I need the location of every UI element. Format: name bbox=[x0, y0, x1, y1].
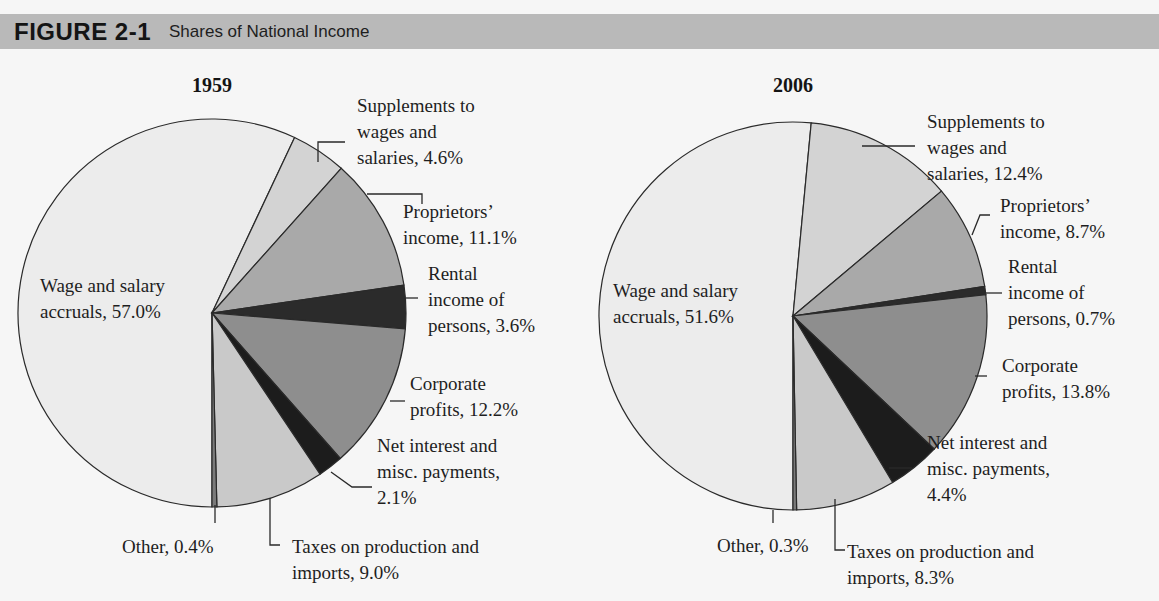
pie-chart-2006: 2006 Wage and salaryaccruals, 51.6% Supp… bbox=[599, 74, 1115, 588]
label-taxes-1959: Taxes on production andimports, 9.0% bbox=[292, 536, 480, 583]
label-proprietors-2006: Proprietors’income, 8.7% bbox=[1000, 195, 1105, 242]
label-proprietors-1959: Proprietors’income, 11.1% bbox=[403, 201, 517, 248]
label-other-2006: Other, 0.3% bbox=[717, 535, 809, 556]
label-other-1959: Other, 0.4% bbox=[122, 536, 214, 557]
label-corporate-1959: Corporateprofits, 12.2% bbox=[410, 373, 518, 420]
label-netinterest-1959: Net interest andmisc. payments,2.1% bbox=[377, 435, 500, 508]
pie-chart-1959: 1959 Wage and salaryaccruals, 57.0% Supp… bbox=[18, 74, 535, 583]
chart-title-2006: 2006 bbox=[773, 74, 813, 96]
label-supplements-1959: Supplements towages andsalaries, 4.6% bbox=[357, 95, 475, 168]
label-corporate-2006: Corporateprofits, 13.8% bbox=[1002, 355, 1110, 402]
label-netinterest-2006: Net interest andmisc. payments,4.4% bbox=[927, 432, 1050, 505]
leader-taxes-1959 bbox=[270, 498, 280, 545]
chart-title-1959: 1959 bbox=[192, 74, 232, 96]
charts-canvas: 1959 Wage and salaryaccruals, 57.0% Supp… bbox=[0, 0, 1159, 601]
label-taxes-2006: Taxes on production andimports, 8.3% bbox=[847, 541, 1035, 588]
leader-netinterest-1959 bbox=[331, 472, 372, 487]
label-rental-1959: Rentalincome ofpersons, 3.6% bbox=[428, 263, 535, 336]
leader-proprietors-2006 bbox=[972, 215, 990, 235]
label-rental-2006: Rentalincome ofpersons, 0.7% bbox=[1008, 256, 1115, 329]
leader-taxes-2006 bbox=[835, 499, 845, 550]
label-supplements-2006: Supplements towages andsalaries, 12.4% bbox=[927, 111, 1045, 184]
